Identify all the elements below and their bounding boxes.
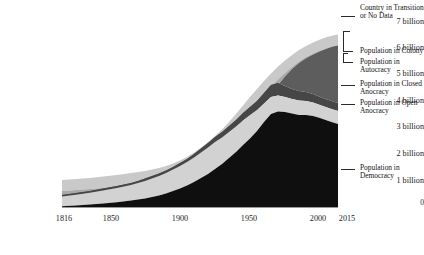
plot-area bbox=[62, 21, 338, 207]
legend-connector-line-closed-anocracy bbox=[341, 85, 355, 86]
legend-label-closed-anocracy: Population in Closed Anocracy bbox=[360, 80, 424, 97]
legend-bracket-autocracy bbox=[343, 53, 344, 63]
xtick-1950: 1950 bbox=[241, 214, 257, 223]
legend-connector-line-democracy bbox=[341, 169, 355, 170]
legend-connector-line-transition bbox=[341, 16, 355, 17]
xtick-2000: 2000 bbox=[310, 214, 326, 223]
xtick-1850: 1850 bbox=[103, 214, 119, 223]
stacked-area-svg bbox=[62, 21, 338, 207]
legend-bracket-colony bbox=[343, 31, 344, 52]
chart-legend: Country in Transition or No Data Populat… bbox=[341, 4, 424, 204]
legend-label-colony: Population in Colony bbox=[360, 47, 424, 55]
xtick-1816: 1816 bbox=[56, 214, 72, 223]
legend-label-democracy: Population in Democracy bbox=[360, 164, 424, 181]
legend-label-autocracy: Population in Autocracy bbox=[360, 58, 424, 75]
gridline-zero-axis bbox=[62, 207, 338, 208]
xtick-1900: 1900 bbox=[172, 214, 188, 223]
legend-label-transition: Country in Transition or No Data bbox=[360, 4, 424, 21]
xtick-2015: 2015 bbox=[339, 214, 355, 223]
legend-label-open-anocracy: Population in Open Anocracy bbox=[360, 99, 424, 116]
legend-connector-line-open-anocracy bbox=[341, 104, 355, 105]
chart-root: 7 billion 6 billion 5 billion 4 billion … bbox=[0, 0, 424, 255]
